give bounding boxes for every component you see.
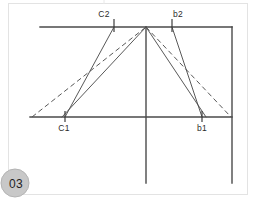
point-label-c2: C2 xyxy=(98,9,109,19)
diagram-page: C2 b2 C1 b1 03 xyxy=(0,0,256,201)
point-label-b2: b2 xyxy=(173,9,183,19)
page-frame-border xyxy=(9,4,248,195)
solid-ray-apex-to-c1 xyxy=(62,27,146,117)
point-label-b1: b1 xyxy=(197,123,207,133)
solid-ray-c2-to-c1 xyxy=(65,27,114,117)
geometry-diagram-canvas: C2 b2 C1 b1 03 xyxy=(0,0,256,201)
dashed-ray-apex-to-right xyxy=(146,27,231,117)
page-number-text: 03 xyxy=(9,177,23,191)
point-label-c1: C1 xyxy=(58,123,69,133)
